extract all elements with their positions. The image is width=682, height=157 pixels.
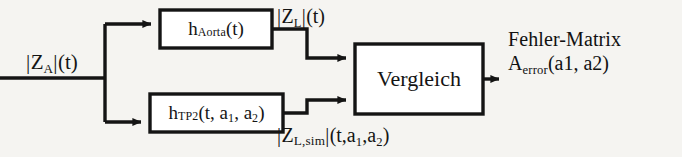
block-diagram: hAorta(t) hTP2(t, a1, a2) Vergleich |ZA|… [0,0,682,157]
h-aorta-block-label: hAorta(t) [160,10,272,48]
h-tp2-base: h [168,102,178,124]
tp2-output-signal-label: |ZL,sim|(t,a1,a2) [277,125,389,146]
fehler-matrix-label: Fehler-Matrix [508,28,676,51]
input-args: (t) [58,50,78,74]
h-aorta-subscript: Aorta [198,25,226,40]
h-aorta-output-line [272,29,346,58]
input-signal-label: |ZA|(t) [26,52,78,74]
zl-args: (t) [306,5,325,27]
zlsim-subscript: L,sim [294,133,325,148]
h-tp2-subscript: TP2 [178,109,199,124]
a-error-base: A [508,52,522,74]
h-tp2-args: (t, a1, a2) [198,102,264,124]
input-subscript: A [44,61,54,76]
h-tp2-block-label: hTP2(t, a1, a2) [150,94,283,132]
zl-subscript: L [294,16,302,30]
a-error-subscript: error [522,63,547,77]
zl-magnitude: Z [282,5,294,27]
zlsim-args: (t,a1,a2) [330,124,390,146]
vergleich-block-label: Vergleich [355,44,483,114]
h-tp2-output-line [283,100,346,113]
zlsim-magnitude: Z [282,124,294,146]
zlsim-bar-close: | [325,124,330,146]
input-magnitude: Z [31,50,44,74]
aorta-output-signal-label: |ZL|(t) [277,6,325,27]
a-error-label: Aerror(a1, a2) [508,52,676,75]
h-aorta-base: h [188,18,198,40]
a-error-args: (a1, a2) [548,52,609,74]
h-aorta-args: (t) [226,18,244,40]
output-label-group: Fehler-Matrix Aerror(a1, a2) [508,28,676,75]
